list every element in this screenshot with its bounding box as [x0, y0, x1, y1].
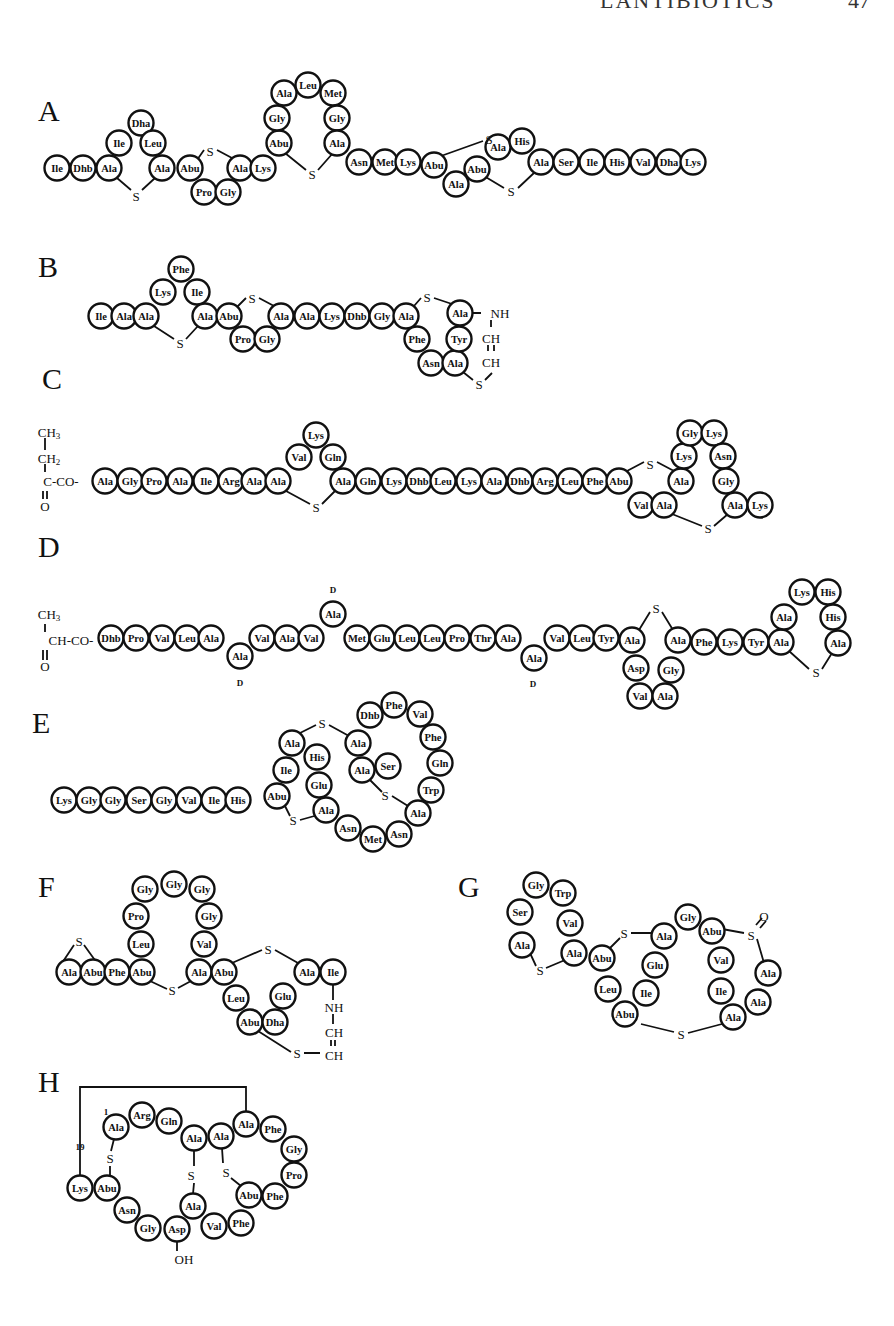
residue-gly: Gly: [190, 877, 215, 902]
sulfur-bridge-label: S: [222, 1165, 229, 1180]
residue-ile: Ile: [580, 150, 605, 175]
residue-asp: Asp: [165, 1217, 190, 1242]
svg-text:Lys: Lys: [722, 637, 738, 648]
residue-pro: Pro: [142, 469, 167, 494]
svg-text:Lys: Lys: [155, 287, 171, 298]
svg-text:Phe: Phe: [267, 1191, 284, 1202]
residue-glu: Glu: [370, 626, 395, 651]
residue-ala: Ala: [653, 684, 678, 709]
svg-text:Leu: Leu: [561, 476, 579, 487]
residue-ala: Ala: [228, 644, 253, 669]
residue-arg: Arg: [533, 469, 558, 494]
svg-text:Asn: Asn: [350, 157, 368, 168]
svg-text:C-CO-: C-CO-: [43, 474, 78, 489]
residue-lys: Lys: [396, 150, 421, 175]
svg-text:Ala: Ala: [448, 179, 465, 190]
svg-text:Val: Val: [550, 633, 565, 644]
svg-text:Ile: Ile: [200, 476, 212, 487]
sulfur-bridge-label: S: [812, 665, 819, 680]
svg-text:Ala: Ala: [657, 691, 674, 702]
svg-text:Abu: Abu: [97, 1183, 116, 1194]
bonds: [43, 141, 832, 1251]
residue-ala: Ala: [182, 1126, 207, 1151]
svg-text:CH2: CH2: [38, 451, 61, 468]
residue-glu: Glu: [643, 953, 668, 978]
svg-text:Gly: Gly: [329, 113, 346, 124]
svg-text:Val: Val: [636, 157, 651, 168]
residue-gly: Gly: [136, 1216, 161, 1241]
svg-text:Lys: Lys: [56, 795, 72, 806]
residue-gly: Gly: [282, 1137, 307, 1162]
residue-abu: Abu: [267, 131, 292, 156]
svg-text:Gly: Gly: [286, 1144, 303, 1155]
svg-text:Leu: Leu: [599, 984, 617, 995]
residue-ala: Ala: [280, 731, 305, 756]
residue-ala: Ala: [652, 493, 677, 518]
residue-ala: Ala: [756, 961, 781, 986]
svg-text:Ala: Ala: [656, 500, 673, 511]
residue-ala: Ala: [522, 646, 547, 671]
svg-text:Dhb: Dhb: [360, 710, 379, 721]
residue-gln: Gln: [157, 1109, 182, 1134]
svg-text:His: His: [825, 612, 840, 623]
residue-ala: Ala: [394, 304, 419, 329]
residue-ser: Ser: [508, 900, 533, 925]
residue-phe: Phe: [261, 1117, 286, 1142]
residue-tyr: Tyr: [594, 626, 619, 651]
svg-text:Leu: Leu: [132, 939, 150, 950]
svg-text:Ile: Ile: [51, 163, 63, 174]
residue-abu: Abu: [700, 919, 725, 944]
residue-val: Val: [202, 1214, 227, 1239]
residue-val: Val: [558, 911, 583, 936]
residue-abu: Abu: [81, 960, 106, 985]
svg-text:NH: NH: [491, 306, 510, 321]
residue-leu: Leu: [224, 986, 249, 1011]
residue-ile: Ile: [274, 758, 299, 783]
residue-ala: Ala: [57, 960, 82, 985]
svg-text:Ala: Ala: [172, 476, 189, 487]
svg-text:Abu: Abu: [180, 163, 199, 174]
residue-ile: Ile: [202, 788, 227, 813]
svg-text:Ala: Ala: [185, 1201, 202, 1212]
svg-text:Gly: Gly: [269, 113, 286, 124]
svg-text:Ala: Ala: [97, 476, 114, 487]
svg-text:Leu: Leu: [299, 80, 317, 91]
residue-lys: Lys: [151, 280, 176, 305]
svg-text:Ala: Ala: [325, 609, 342, 620]
residue-val: Val: [629, 493, 654, 518]
svg-text:Ala: Ala: [276, 88, 293, 99]
residue-lys: Lys: [718, 630, 743, 655]
residue-gly: Gly: [162, 872, 187, 897]
residue-abu: Abu: [217, 304, 242, 329]
residue-ala: Ala: [234, 1112, 259, 1137]
svg-text:Ala: Ala: [670, 635, 687, 646]
sulfur-bridge-label: S: [312, 500, 319, 515]
svg-text:Ala: Ala: [299, 967, 316, 978]
residue-met: Met: [373, 150, 398, 175]
annotation-label: D: [237, 678, 244, 688]
residue-leu: Leu: [175, 626, 200, 651]
svg-text:Gly: Gly: [259, 334, 276, 345]
svg-text:Ala: Ala: [191, 967, 208, 978]
annotation-label: 1: [104, 1107, 109, 1117]
svg-text:Asn: Asn: [714, 451, 732, 462]
svg-text:Lys: Lys: [400, 157, 416, 168]
residue-gly: Gly: [370, 304, 395, 329]
residue-ala: Ala: [168, 469, 193, 494]
residue-dha: Dha: [657, 150, 682, 175]
svg-text:Val: Val: [197, 939, 212, 950]
svg-text:Asp: Asp: [168, 1224, 186, 1235]
residue-dhb: Dhb: [99, 626, 124, 651]
svg-text:Dhb: Dhb: [73, 163, 92, 174]
residue-phe: Phe: [583, 469, 608, 494]
svg-text:Ile: Ile: [327, 967, 339, 978]
residue-abu: Abu: [238, 1010, 263, 1035]
residue-leu: Leu: [570, 626, 595, 651]
residue-dha: Dha: [263, 1010, 288, 1035]
residue-ala: Ala: [331, 469, 356, 494]
svg-text:Ala: Ala: [776, 612, 793, 623]
svg-text:His: His: [820, 587, 835, 598]
svg-text:Leu: Leu: [573, 633, 591, 644]
svg-text:Ser: Ser: [131, 795, 147, 806]
svg-text:Ile: Ile: [640, 988, 652, 999]
